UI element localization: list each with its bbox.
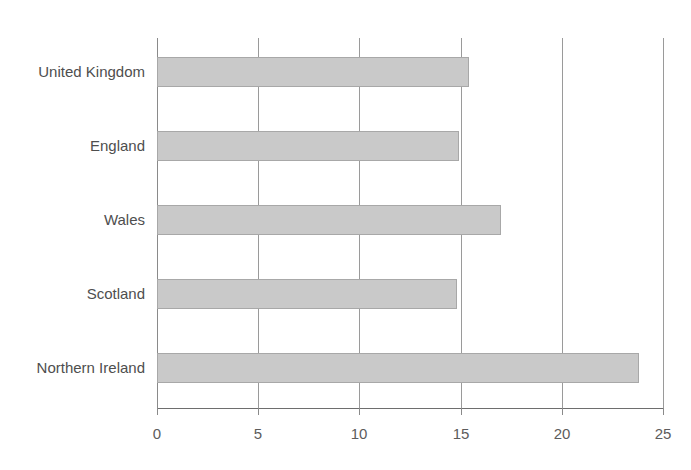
bar-band xyxy=(157,112,663,186)
category-label: Wales xyxy=(0,205,145,235)
x-tick-5 xyxy=(258,408,259,415)
bar xyxy=(157,57,469,87)
x-tick-label: 25 xyxy=(655,425,672,442)
x-tick-20 xyxy=(562,408,563,415)
category-label: England xyxy=(0,131,145,161)
bar-chart: g United KingdomEnglandWalesScotlandNort… xyxy=(0,0,691,470)
bar-band xyxy=(157,186,663,260)
x-tick-label: 0 xyxy=(153,425,161,442)
x-tick-label: 10 xyxy=(351,425,368,442)
x-tick-label: 5 xyxy=(254,425,262,442)
x-tick-0 xyxy=(157,408,158,415)
bar xyxy=(157,279,457,309)
plot-area xyxy=(157,38,663,408)
bar-band xyxy=(157,334,663,408)
x-tick-15 xyxy=(461,408,462,415)
bar-band xyxy=(157,38,663,112)
bar-band xyxy=(157,260,663,334)
x-tick-25 xyxy=(663,408,664,415)
category-label: Scotland xyxy=(0,279,145,309)
category-label: Northern Ireland xyxy=(0,353,145,383)
gridline-25 xyxy=(663,38,664,408)
x-tick-10 xyxy=(359,408,360,415)
bar xyxy=(157,353,639,383)
x-axis-line xyxy=(157,408,664,409)
x-tick-label: 15 xyxy=(453,425,470,442)
bar xyxy=(157,205,501,235)
bar xyxy=(157,131,459,161)
x-tick-label: 20 xyxy=(554,425,571,442)
category-label: United Kingdom xyxy=(0,57,145,87)
